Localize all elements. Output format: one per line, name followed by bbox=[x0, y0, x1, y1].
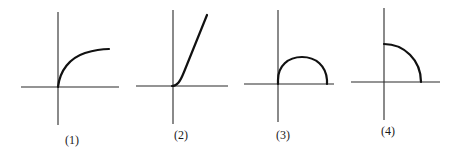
panel-3: (3) bbox=[244, 10, 334, 142]
panel-2-label: (2) bbox=[174, 128, 188, 142]
panel-1-concave-curve bbox=[58, 49, 109, 87]
panel-3-label: (3) bbox=[276, 128, 290, 142]
panel-1-label: (1) bbox=[65, 133, 79, 147]
panel-2-convex-curve bbox=[172, 15, 207, 86]
panel-1: (1) bbox=[21, 12, 119, 147]
panel-4-quarter-circle bbox=[384, 44, 421, 82]
panel-2: (2) bbox=[136, 10, 228, 142]
panel-4-label: (4) bbox=[381, 124, 395, 138]
panel-3-semicircle bbox=[278, 57, 327, 84]
panel-4: (4) bbox=[351, 8, 440, 138]
four-graphs-figure: (1) (2) (3) (4) bbox=[0, 0, 457, 153]
